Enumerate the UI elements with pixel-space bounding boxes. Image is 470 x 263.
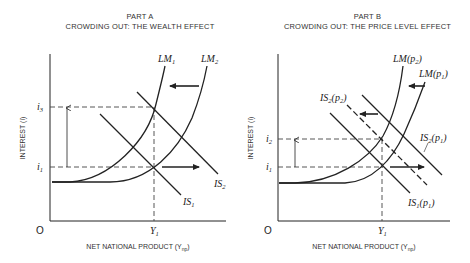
panel-b-i1-tick: i1 — [266, 161, 272, 173]
panel-a-lm2-curve — [52, 66, 207, 182]
panel-a-i1-tick: i1 — [37, 161, 43, 173]
panel-b-lm-p1-curve — [279, 82, 425, 183]
panel-b-lm-p2-label: LM(p2) — [392, 53, 422, 65]
panel-b-is2-p1-label: IS2(p1) — [419, 132, 447, 144]
panel-a-x-axis-label: NET NATIONAL PRODUCT (Ynp) — [86, 243, 189, 252]
panel-a-y1-tick: Y1 — [150, 225, 159, 237]
panel-a-lm1-label: LM1 — [157, 53, 175, 65]
panel-b-lm-p1-label: LM(p1) — [418, 68, 448, 80]
panel-a-lm2-label: LM2 — [200, 53, 219, 65]
panel-b-is2-p1-line — [362, 95, 442, 175]
panel-b-is2-p1-leader — [424, 143, 428, 152]
panel-a-chart: INTEREST (i) LM1 LM2 IS1 IS2 i3 i1 Y1 O … — [19, 53, 226, 252]
panel-b-is1-p1-line — [330, 113, 410, 193]
panel-b-y-axis-label: INTEREST (i) — [247, 117, 255, 160]
panel-a-is2-line — [137, 92, 218, 174]
panel-b-origin: O — [264, 225, 272, 236]
panel-a-y-axis-label: INTEREST (i) — [19, 117, 27, 160]
panel-b-i2-tick: i2 — [266, 133, 273, 145]
panel-a-lm1-curve — [52, 66, 165, 182]
diagram-canvas: INTEREST (i) LM1 LM2 IS1 IS2 i3 i1 Y1 O … — [0, 0, 470, 263]
panel-a-is2-label: IS2 — [213, 178, 226, 190]
panel-b-is1-p1-label: IS1(p1) — [407, 197, 435, 209]
panel-b-y1-tick: Y1 — [378, 225, 387, 237]
panel-b-is2-p2-label: IS2(p2) — [319, 92, 347, 104]
panel-a-is1-label: IS1 — [182, 196, 195, 208]
panel-b-is2-p2-dashed-line — [347, 105, 427, 185]
panel-b-chart: INTEREST (i) LM(p2) LM(p1) IS2(p2) IS2(p… — [247, 53, 450, 252]
panel-b-x-axis-label: NET NATIONAL PRODUCT (Ynp) — [312, 243, 415, 252]
panel-a-i3-tick: i3 — [37, 101, 44, 113]
panel-a-origin: O — [36, 225, 44, 236]
